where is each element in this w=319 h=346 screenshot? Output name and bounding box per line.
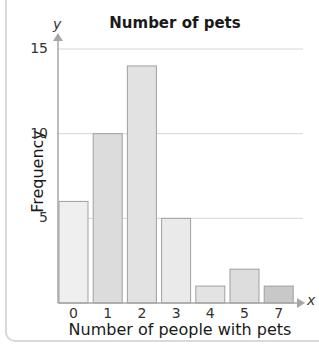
bar-5	[230, 269, 259, 303]
bar-1	[93, 134, 122, 303]
bar-3	[162, 218, 191, 303]
bar-4	[196, 286, 225, 303]
bars	[59, 66, 293, 303]
bar-7	[264, 286, 293, 303]
bar-0	[59, 201, 88, 303]
x-axis-arrow-icon	[297, 298, 305, 308]
bar-2	[127, 66, 156, 303]
y-axis-arrow-icon	[53, 33, 63, 41]
plot-area	[0, 0, 319, 346]
